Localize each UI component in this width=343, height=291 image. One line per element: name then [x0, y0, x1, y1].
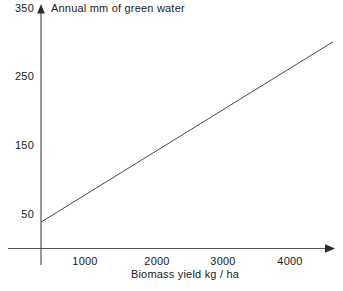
x-tick-label-3000: 3000	[210, 255, 235, 267]
y-tick-label-350: 350	[4, 2, 34, 14]
chart-figure: 350 250 150 50 1000 2000 3000 4000 Annua…	[0, 0, 343, 291]
x-axis-title: Biomass yield kg / ha	[131, 268, 239, 280]
y-tick-label-150: 150	[4, 139, 34, 151]
chart-axes-and-plot	[0, 0, 343, 291]
x-axis-arrow-icon	[325, 244, 335, 253]
y-tick-label-50: 50	[4, 208, 34, 220]
x-tick-label-1000: 1000	[72, 255, 97, 267]
y-axis-title: Annual mm of green water	[51, 2, 185, 14]
y-tick-label-250: 250	[4, 70, 34, 82]
x-tick-label-4000: 4000	[277, 255, 302, 267]
trend-line	[41, 42, 333, 222]
x-tick-label-2000: 2000	[144, 255, 169, 267]
y-axis-arrow-icon	[37, 4, 45, 14]
